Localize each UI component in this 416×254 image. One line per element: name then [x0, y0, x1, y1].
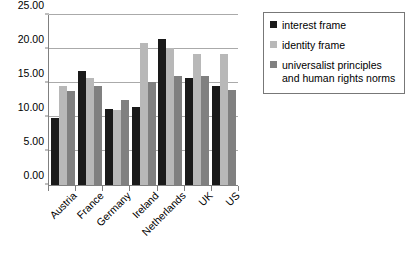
plot-area: 0.005.0010.0015.0020.0025.00: [48, 15, 238, 186]
bar: [185, 78, 193, 185]
bar: [105, 109, 113, 185]
y-tick-label: 5.00: [24, 135, 44, 146]
legend-label: universalist principles and human rights…: [282, 59, 398, 85]
y-tick-label: 0.00: [24, 169, 44, 180]
bar-group: [130, 15, 157, 185]
chart-legend: interest frameidentity frameuniversalist…: [263, 12, 405, 94]
bar: [78, 71, 86, 185]
legend-swatch-icon: [270, 61, 277, 68]
bar: [174, 76, 182, 185]
x-axis-label-uk: UK: [196, 190, 214, 208]
y-tick-label: 15.00: [18, 67, 44, 78]
bar: [212, 86, 220, 185]
bar: [51, 118, 59, 185]
x-axis-label-us: US: [224, 190, 242, 208]
bar: [148, 82, 156, 185]
legend-item: interest frame: [270, 19, 398, 32]
bar: [201, 76, 209, 185]
legend-item: identity frame: [270, 39, 398, 52]
bar-group: [210, 15, 237, 185]
bar: [59, 86, 67, 185]
bar: [132, 107, 140, 185]
bar: [166, 48, 174, 185]
bar-group: [50, 15, 77, 185]
bar: [86, 78, 94, 185]
bar: [220, 54, 228, 185]
bar: [140, 43, 148, 185]
legend-swatch-icon: [270, 21, 277, 28]
y-tick-label: 10.00: [18, 101, 44, 112]
bar: [67, 91, 75, 185]
bar-chart: 0.005.0010.0015.0020.0025.00 AustriaFran…: [0, 0, 416, 254]
x-axis-label-austria: Austria: [48, 190, 79, 221]
bar: [228, 90, 236, 185]
bar-group: [184, 15, 211, 185]
bar: [113, 110, 121, 185]
y-tick-label: 25.00: [18, 0, 44, 10]
legend-label: identity frame: [282, 39, 345, 52]
legend-item: universalist principles and human rights…: [270, 59, 398, 85]
bars-layer: [49, 15, 238, 185]
bar: [94, 86, 102, 185]
bar: [193, 54, 201, 185]
y-tick-label: 20.00: [18, 33, 44, 44]
plot-frame: 0.005.0010.0015.0020.0025.00: [48, 15, 238, 186]
bar-group: [77, 15, 104, 185]
bar: [158, 39, 166, 185]
bar-group: [103, 15, 130, 185]
legend-swatch-icon: [270, 41, 277, 48]
bar-group: [157, 15, 184, 185]
legend-label: interest frame: [282, 19, 346, 32]
x-axis-labels: AustriaFranceGermanyIrelandNetherlandsUK…: [48, 190, 248, 250]
bar: [121, 100, 129, 185]
